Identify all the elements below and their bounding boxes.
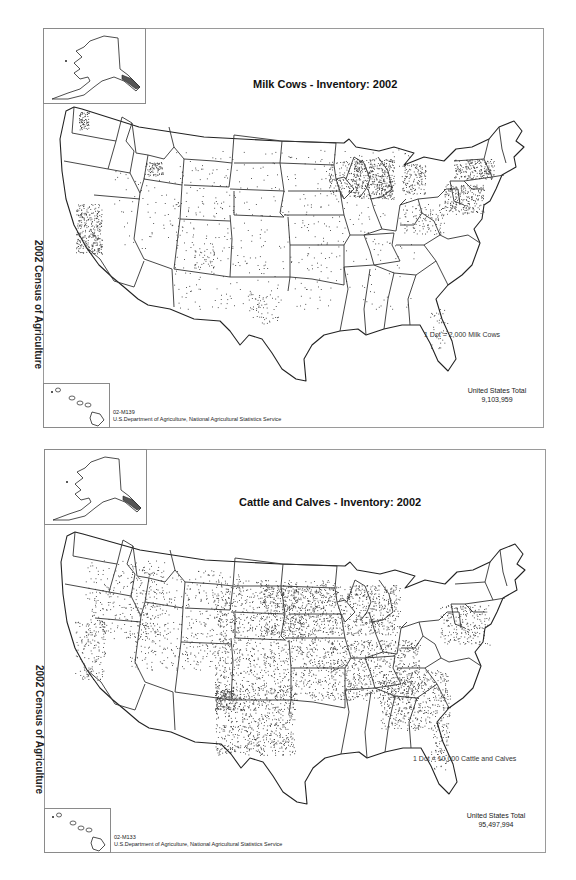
us-total-label: United States Total: [442, 386, 552, 395]
alaska-inset: [44, 449, 147, 525]
hawaii-outline-icon: [45, 809, 112, 854]
side-label-bottom: 2002 Census of Agriculture: [34, 665, 45, 794]
alaska-outline-icon: [45, 450, 148, 526]
dot-field: [76, 112, 495, 349]
us-total-value: 95,497,994: [441, 820, 551, 829]
alaska-inset: [43, 28, 146, 104]
map-source: 02-M139 U.S.Department of Agriculture, N…: [113, 409, 281, 423]
hawaii-inset: [43, 383, 110, 428]
us-total: United States Total 95,497,994: [441, 811, 551, 829]
map-title: Cattle and Calves - Inventory: 2002: [239, 496, 421, 508]
map-source: 02-M133 U.S.Department of Agriculture, N…: [114, 834, 282, 848]
us-total: United States Total 9,103,959: [442, 386, 552, 404]
source-agency: U.S.Department of Agriculture, National …: [113, 416, 281, 423]
map-panel-cattle-calves: Cattle and Calves - Inventory: 2002 1 Do…: [44, 449, 546, 853]
hawaii-inset: [44, 808, 111, 853]
dot-field: [75, 560, 490, 770]
dot-legend: 1 Dot = 10,000 Cattle and Calves: [413, 755, 516, 762]
alaska-outline-icon: [44, 29, 147, 105]
map-code: 02-M133: [114, 834, 282, 841]
map-title: Milk Cows - Inventory: 2002: [253, 78, 397, 90]
source-agency: U.S.Department of Agriculture, National …: [114, 841, 282, 848]
hawaii-outline-icon: [44, 384, 111, 429]
us-total-value: 9,103,959: [442, 395, 552, 404]
side-label-top: 2002 Census of Agriculture: [33, 240, 44, 369]
map-panel-milk-cows: Milk Cows - Inventory: 2002 1 Dot = 2,00…: [43, 28, 544, 428]
state-boundaries: [61, 532, 525, 804]
state-boundaries: [60, 107, 524, 381]
us-total-label: United States Total: [441, 811, 551, 820]
map-code: 02-M139: [113, 409, 281, 416]
dot-legend: 1 Dot = 2,000 Milk Cows: [424, 331, 500, 338]
